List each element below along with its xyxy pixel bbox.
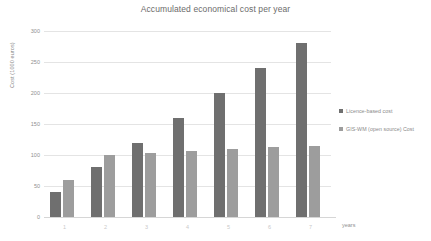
y-axis-tick-label: 200 [10, 90, 40, 96]
bar [268, 147, 279, 217]
bar-group [208, 31, 249, 217]
bar [173, 118, 184, 217]
x-axis-tick-label: 6 [255, 224, 285, 230]
bar [145, 153, 156, 217]
bar-group [290, 31, 331, 217]
legend-label: Licence-based cost [346, 108, 393, 114]
y-axis-tick-label: 0 [10, 214, 40, 220]
bar [50, 192, 61, 217]
x-axis-tick-label: 2 [91, 224, 121, 230]
x-axis-tick-label: 1 [50, 224, 80, 230]
legend-swatch-icon [339, 127, 343, 131]
y-axis-tick-label: 150 [10, 121, 40, 127]
bar-group [126, 31, 167, 217]
x-axis-tick-label: 3 [132, 224, 162, 230]
bar [104, 155, 115, 217]
x-axis-title: years [342, 222, 355, 228]
bar [132, 143, 143, 217]
y-axis-title: Cost (1000 euros) [9, 42, 15, 88]
bar [309, 146, 320, 217]
x-axis-tick-label: 4 [173, 224, 203, 230]
legend-label: GIS-WM (open source) Cost [346, 126, 414, 132]
bar [91, 167, 102, 217]
bars-layer [44, 31, 331, 217]
y-axis-tick-label: 300 [10, 28, 40, 34]
bar-group [44, 31, 85, 217]
bar [227, 149, 238, 217]
chart-legend: Licence-based costGIS-WM (open source) C… [339, 108, 431, 144]
x-axis-tick-label: 5 [214, 224, 244, 230]
legend-swatch-icon [339, 109, 343, 113]
bar [296, 43, 307, 217]
y-axis-tick-label: 250 [10, 59, 40, 65]
bar-chart: Accumulated economical cost per year Cos… [0, 0, 431, 241]
plot-area [44, 31, 331, 217]
x-axis-tick-label: 7 [296, 224, 326, 230]
bar [214, 93, 225, 217]
y-axis-tick-label: 100 [10, 152, 40, 158]
y-axis-tick-label: 50 [10, 183, 40, 189]
bar-group [167, 31, 208, 217]
bar [186, 151, 197, 217]
x-axis-line [44, 217, 336, 218]
bar [63, 180, 74, 217]
bar [255, 68, 266, 217]
chart-title: Accumulated economical cost per year [0, 4, 431, 14]
bar-group [249, 31, 290, 217]
legend-item[interactable]: Licence-based cost [339, 108, 431, 114]
legend-item[interactable]: GIS-WM (open source) Cost [339, 126, 431, 132]
bar-group [85, 31, 126, 217]
